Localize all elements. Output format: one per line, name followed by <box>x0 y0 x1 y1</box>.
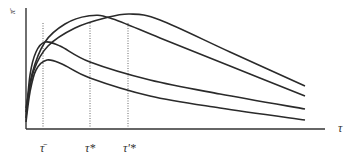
curve-4 <box>26 14 305 108</box>
tick-tau-prime-star: τ'* <box>123 141 136 156</box>
tick-tau-star: τ* <box>85 141 95 156</box>
x-axis-label: τ <box>338 121 342 136</box>
curve-2 <box>26 60 305 122</box>
line-chart <box>0 0 362 163</box>
curve-3 <box>26 15 305 112</box>
y-axis-label: π̄ <box>8 10 17 14</box>
tick-tau-bar: τ̄ <box>40 141 44 156</box>
curves <box>26 14 305 122</box>
